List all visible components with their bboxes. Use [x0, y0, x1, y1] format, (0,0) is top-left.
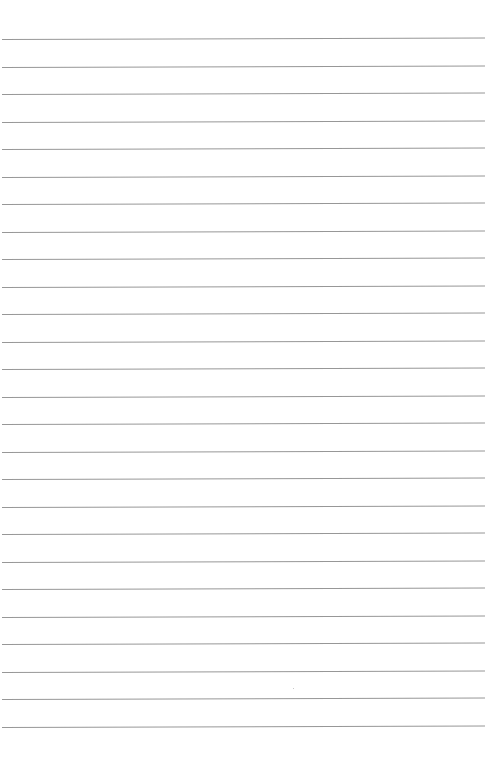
ruled-line: [2, 477, 485, 480]
ruled-line: [2, 120, 485, 123]
ruled-line: [2, 615, 485, 618]
ruled-line: [2, 312, 485, 315]
ruled-line: [2, 65, 485, 68]
ruled-line: [2, 560, 485, 563]
ruled-line: [2, 285, 485, 288]
lined-page: [0, 0, 496, 760]
ruled-line: [2, 147, 485, 150]
ruled-line: [2, 340, 485, 343]
ruled-line: [2, 697, 485, 700]
ruled-line: [2, 505, 485, 508]
ruled-line: [2, 230, 485, 233]
ruled-line: [2, 175, 485, 178]
ruled-line: [2, 725, 485, 728]
ruled-line: [2, 92, 485, 95]
ruled-line: [2, 450, 485, 453]
paper-speck: [293, 688, 294, 689]
ruled-line: [2, 642, 485, 645]
ruled-line: [2, 202, 485, 205]
ruled-line: [2, 395, 485, 398]
ruled-line: [2, 532, 485, 535]
ruled-line: [2, 257, 485, 260]
ruled-line: [2, 670, 485, 673]
ruled-line: [2, 37, 485, 40]
ruled-line: [2, 367, 485, 370]
ruled-line: [2, 422, 485, 425]
ruled-line: [2, 587, 485, 590]
